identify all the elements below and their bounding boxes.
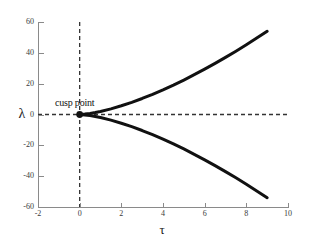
y-tick-label: 40 xyxy=(12,49,34,57)
x-tick-mark xyxy=(246,203,247,208)
y-tick-label: -60 xyxy=(12,203,34,211)
x-tick-mark xyxy=(205,203,206,208)
x-tick-mark xyxy=(163,203,164,208)
y-tick-mark xyxy=(39,176,44,177)
x-tick-label: 0 xyxy=(68,209,92,219)
x-tick-mark xyxy=(121,203,122,208)
cusp-point-annotation: cusp point xyxy=(55,97,94,108)
y-tick-label: 60 xyxy=(12,18,34,26)
x-tick-mark xyxy=(288,203,289,208)
y-tick-label: -40 xyxy=(12,172,34,180)
figure-root: -20246810-60-40-200204060 τ λ cusp point xyxy=(0,0,310,248)
y-tick-mark xyxy=(39,22,44,23)
y-tick-mark xyxy=(39,115,44,116)
x-tick-label: 2 xyxy=(109,209,133,219)
x-tick-label: 10 xyxy=(276,209,300,219)
curve-upper-branch xyxy=(80,31,268,114)
y-tick-label: 20 xyxy=(12,80,34,88)
y-tick-label: -20 xyxy=(12,141,34,149)
x-tick-mark xyxy=(80,203,81,208)
y-tick-mark xyxy=(39,84,44,85)
x-axis-label: τ xyxy=(147,222,177,238)
curve-lower-branch xyxy=(80,115,268,198)
x-tick-label: 4 xyxy=(151,209,175,219)
y-tick-mark xyxy=(39,145,44,146)
x-tick-label: 8 xyxy=(234,209,258,219)
y-tick-mark xyxy=(39,53,44,54)
y-tick-mark xyxy=(39,207,44,208)
x-tick-label: 6 xyxy=(193,209,217,219)
cusp-point-marker xyxy=(76,111,83,118)
y-axis-label: λ xyxy=(14,106,30,122)
